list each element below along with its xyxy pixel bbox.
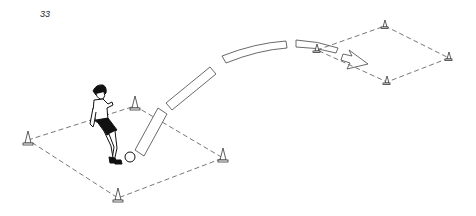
cone-icon [113, 188, 123, 202]
start-grid [23, 96, 228, 202]
soccer-ball-icon [125, 152, 135, 162]
pass-trajectory-arrow [135, 40, 368, 156]
player-figure [90, 85, 122, 164]
player-shoe [114, 160, 122, 164]
trajectory-segment [222, 41, 287, 63]
drill-illustration [0, 0, 476, 216]
start-grid-dashed-outline [28, 106, 223, 198]
target-grid-dashed-outline [317, 26, 449, 82]
arrow-head-icon [341, 50, 368, 69]
cone-icon [23, 131, 33, 145]
cone-icon [383, 76, 390, 85]
cone-icon [130, 96, 140, 110]
cone-icon [218, 148, 228, 162]
cone-icon [381, 20, 388, 29]
trajectory-segment [166, 67, 216, 110]
